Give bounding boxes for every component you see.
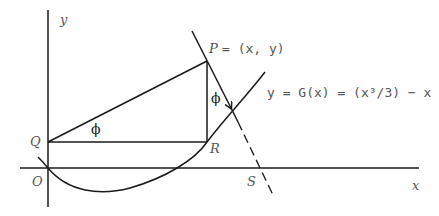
y-axis-label: y bbox=[59, 12, 68, 27]
angle-phi-at-P: ϕ bbox=[211, 90, 221, 106]
segment-QP bbox=[48, 61, 207, 142]
point-R-label: R bbox=[209, 141, 220, 156]
diagram: y x O P = (x, y) Q R S ϕ ϕ y = G(x) = (x… bbox=[0, 0, 439, 216]
curve-equation-label: y = G(x) = (x³/3) − x bbox=[267, 85, 432, 100]
angle-phi-at-Q: ϕ bbox=[91, 121, 101, 137]
line-through-P-continued bbox=[231, 108, 238, 122]
origin-label: O bbox=[32, 174, 43, 189]
point-S-label: S bbox=[247, 174, 256, 189]
x-axis-label: x bbox=[412, 178, 420, 193]
diagram-canvas: y x O P = (x, y) Q R S ϕ ϕ y = G(x) = (x… bbox=[0, 0, 439, 216]
point-P-label: P bbox=[208, 41, 218, 56]
point-Q-label: Q bbox=[30, 134, 41, 149]
point-P-coords: = (x, y) bbox=[222, 41, 285, 56]
